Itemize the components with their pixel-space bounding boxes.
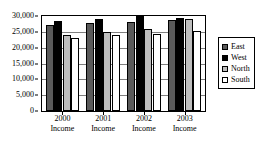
legend-item-east[interactable]: East bbox=[222, 41, 250, 52]
chart-legend: EastWestNorthSouth bbox=[218, 37, 255, 89]
y-tick-mark bbox=[35, 47, 38, 48]
y-tick-mark bbox=[35, 16, 38, 17]
y-tick-mark bbox=[35, 31, 38, 32]
y-tick-mark bbox=[35, 63, 38, 64]
bars-layer bbox=[42, 16, 205, 111]
legend-label: South bbox=[231, 75, 250, 84]
x-tick-label-line: 2003 bbox=[157, 114, 213, 124]
y-tick-label: 20,000 bbox=[12, 44, 34, 52]
x-tick-mark bbox=[144, 112, 145, 115]
x-axis: 2000Income2001Income2002Income2003Income bbox=[41, 114, 206, 142]
bar-west-2001 bbox=[95, 19, 103, 111]
legend-swatch-west-icon bbox=[222, 55, 228, 61]
x-tick-mark bbox=[62, 112, 63, 115]
bar-east-2003 bbox=[168, 20, 176, 111]
legend-item-west[interactable]: West bbox=[222, 52, 250, 63]
x-tick-mark bbox=[185, 112, 186, 115]
bar-north-2003 bbox=[185, 19, 193, 111]
bar-north-2001 bbox=[103, 32, 111, 111]
legend-label: West bbox=[231, 53, 247, 62]
legend-swatch-south-icon bbox=[222, 77, 228, 83]
bar-south-2001 bbox=[112, 35, 120, 111]
legend-item-south[interactable]: South bbox=[222, 74, 250, 85]
y-tick-label: 30,000 bbox=[12, 12, 34, 20]
y-tick-label: 15,000 bbox=[12, 60, 34, 68]
y-tick-mark bbox=[35, 79, 38, 80]
y-tick-mark bbox=[35, 111, 38, 112]
y-tick-label: 25,000 bbox=[12, 28, 34, 36]
legend-label: North bbox=[231, 64, 250, 73]
bar-group bbox=[86, 16, 120, 111]
legend-label: East bbox=[231, 42, 245, 51]
x-tick-mark bbox=[103, 112, 104, 115]
bar-north-2000 bbox=[63, 35, 71, 111]
legend-swatch-east-icon bbox=[222, 44, 228, 50]
bar-west-2000 bbox=[54, 21, 62, 111]
y-tick-mark bbox=[35, 95, 38, 96]
bar-north-2002 bbox=[144, 29, 152, 111]
bar-group bbox=[46, 16, 80, 111]
y-tick-label: 5,000 bbox=[16, 91, 34, 99]
bar-chart: 05,00010,00015,00020,00025,00030,000 200… bbox=[0, 0, 277, 144]
bar-west-2002 bbox=[136, 16, 144, 111]
legend-swatch-north-icon bbox=[222, 66, 228, 72]
x-tick-label-line: Income bbox=[157, 124, 213, 134]
bar-south-2002 bbox=[153, 34, 161, 111]
x-tick-group: 2003Income bbox=[157, 114, 213, 134]
bar-south-2003 bbox=[193, 31, 201, 111]
bar-group bbox=[127, 16, 161, 111]
bar-west-2003 bbox=[176, 18, 184, 111]
y-axis: 05,00010,00015,00020,00025,00030,000 bbox=[0, 15, 38, 112]
bar-east-2001 bbox=[86, 23, 94, 111]
bar-south-2000 bbox=[71, 38, 79, 111]
bar-east-2002 bbox=[127, 22, 135, 111]
bar-east-2000 bbox=[46, 25, 54, 111]
y-tick-label: 10,000 bbox=[12, 75, 34, 83]
legend-item-north[interactable]: North bbox=[222, 63, 250, 74]
bar-group bbox=[168, 16, 202, 111]
